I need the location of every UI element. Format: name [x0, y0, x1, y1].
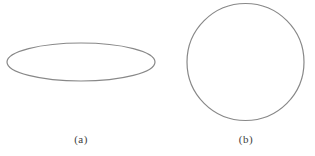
circle-shape	[187, 4, 304, 121]
ellipse-shape	[7, 43, 155, 81]
two-shape-figure: (a) (b)	[0, 0, 315, 156]
label-a: (a)	[51, 132, 111, 146]
label-b: (b)	[216, 132, 276, 146]
